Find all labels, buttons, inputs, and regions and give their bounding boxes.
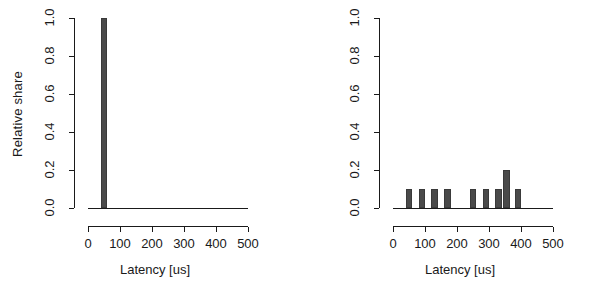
x-axis-line [393,226,553,227]
chart-panel-right: 0.00.20.40.60.81.0 0100200300400500 Late… [305,0,610,288]
histogram-bar [515,189,521,208]
y-axis-tick [374,132,379,133]
y-axis-line [74,18,75,208]
x-axis-tick [120,227,121,232]
y-axis-tick [374,56,379,57]
x-axis-tick [88,227,89,232]
y-axis-tick-label: 1.0 [42,1,55,35]
histogram-bar [470,189,476,208]
histogram-bar [444,189,450,208]
y-axis-tick [69,208,74,209]
x-axis-tick-label: 500 [533,236,573,251]
x-axis-title: Latency [us] [360,262,560,277]
y-axis-tick [69,170,74,171]
histogram-bar [503,170,509,208]
x-axis-tick [248,227,249,232]
y-axis-tick [69,18,74,19]
x-axis-tick-label: 500 [228,236,268,251]
y-axis-tick-label: 0.0 [42,191,55,225]
chart-panel-left: Relative share 0.00.20.40.60.81.0 010020… [0,0,305,288]
y-axis-tick-label: 0.6 [347,77,360,111]
y-axis-title: Relative share [10,4,30,224]
y-axis-tick [69,94,74,95]
y-axis-tick-label: 0.0 [347,191,360,225]
y-axis-tick [374,94,379,95]
x-axis-tick [553,227,554,232]
y-axis-tick-label: 1.0 [347,1,360,35]
y-axis-tick-label: 0.8 [42,39,55,73]
x-axis-line [88,226,248,227]
x-axis-tick [216,227,217,232]
x-axis-title: Latency [us] [55,262,255,277]
plot-baseline [88,208,248,209]
x-axis-tick [425,227,426,232]
y-axis-tick [69,56,74,57]
x-axis-tick [184,227,185,232]
histogram-bar [495,189,501,208]
two-panel-histogram-figure: Relative share 0.00.20.40.60.81.0 010020… [0,0,610,288]
y-axis-tick-label: 0.2 [42,153,55,187]
x-axis-tick [457,227,458,232]
y-axis-tick [374,170,379,171]
histogram-bar [101,18,107,208]
y-axis-tick [374,18,379,19]
y-axis-tick-label: 0.4 [42,115,55,149]
y-axis-tick [69,132,74,133]
x-axis-tick [393,227,394,232]
x-axis-tick [152,227,153,232]
histogram-bar [406,189,412,208]
histogram-bar [431,189,437,208]
y-axis-tick-label: 0.2 [347,153,360,187]
histogram-bar [483,189,489,208]
plot-baseline [393,208,553,209]
y-axis-tick-label: 0.8 [347,39,360,73]
x-axis-tick [489,227,490,232]
y-axis-line [379,18,380,208]
histogram-bar [419,189,425,208]
y-axis-tick [374,208,379,209]
y-axis-tick-label: 0.6 [42,77,55,111]
x-axis-tick [521,227,522,232]
y-axis-tick-label: 0.4 [347,115,360,149]
